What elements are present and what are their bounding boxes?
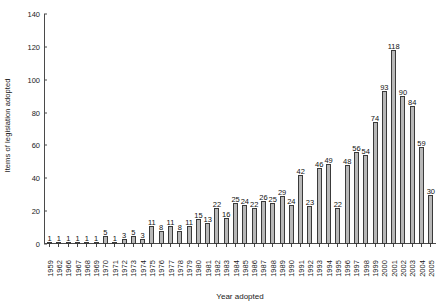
x-axis-tick-mark <box>393 244 394 247</box>
x-axis-tick-label: 1962 <box>54 258 63 280</box>
x-axis-tick-mark <box>216 244 217 247</box>
bar-slot: 1 <box>82 14 91 244</box>
x-axis-slot: 1989 <box>277 244 286 288</box>
bar-slot: 3 <box>119 14 128 244</box>
bar[interactable]: 22 <box>335 208 340 244</box>
x-axis-tick-mark <box>319 244 320 247</box>
x-axis-slot: 1973 <box>129 244 138 288</box>
x-axis-slot: 1981 <box>203 244 212 288</box>
x-axis-tick-mark <box>189 244 190 247</box>
bar[interactable]: 59 <box>419 147 424 244</box>
x-axis-tick-label: 1985 <box>240 258 249 280</box>
bar-slot: 24 <box>240 14 249 244</box>
bar[interactable]: 11 <box>149 226 154 244</box>
x-axis-slot: 1983 <box>222 244 231 288</box>
x-axis-tick-mark <box>430 244 431 247</box>
bar-slot: 11 <box>147 14 156 244</box>
bar-value-label: 5 <box>103 228 107 237</box>
x-axis-tick-mark <box>402 244 403 247</box>
x-axis-tick-label: 1977 <box>166 258 175 280</box>
bar[interactable]: 42 <box>298 175 303 244</box>
y-axis: 020406080100120140 <box>14 14 44 244</box>
bar[interactable]: 24 <box>289 205 294 244</box>
bar-slot: 56 <box>352 14 361 244</box>
bar[interactable]: 25 <box>270 203 275 244</box>
bar[interactable]: 54 <box>363 155 368 244</box>
bar-value-label: 93 <box>380 83 388 92</box>
bar-value-label: 22 <box>213 200 221 209</box>
y-axis-title: Items of legislation adopted <box>0 0 14 250</box>
bar-slot: 48 <box>343 14 352 244</box>
bar[interactable]: 26 <box>261 201 266 244</box>
x-axis-tick-label: 1973 <box>129 258 138 280</box>
bar[interactable]: 30 <box>428 195 433 244</box>
x-axis-tick-mark <box>356 244 357 247</box>
x-axis-tick-mark <box>328 244 329 247</box>
x-axis-tick-label: 1967 <box>73 258 82 280</box>
x-axis-tick-mark <box>337 244 338 247</box>
x-axis-slot: 1993 <box>315 244 324 288</box>
bar[interactable]: 25 <box>233 203 238 244</box>
x-axis-tick-label: 1984 <box>231 258 240 280</box>
bar-value-label: 59 <box>417 139 425 148</box>
bar[interactable]: 56 <box>354 152 359 244</box>
bar[interactable]: 29 <box>280 196 285 244</box>
bar-value-label: 1 <box>48 234 52 243</box>
bar-value-label: 25 <box>269 195 277 204</box>
bar[interactable]: 84 <box>410 106 415 244</box>
x-axis-tick-mark <box>207 244 208 247</box>
bar[interactable]: 49 <box>326 164 331 245</box>
bar[interactable]: 22 <box>252 208 257 244</box>
bar-value-label: 24 <box>287 197 295 206</box>
bar-value-label: 1 <box>94 234 98 243</box>
bar-slot: 26 <box>259 14 268 244</box>
y-axis-tick-label: 20 <box>32 207 40 216</box>
bar[interactable]: 90 <box>400 96 405 244</box>
bar[interactable]: 74 <box>373 122 378 244</box>
bar-value-label: 22 <box>250 200 258 209</box>
bar-value-label: 84 <box>408 98 416 107</box>
x-axis-slot: 1968 <box>82 244 91 288</box>
x-axis-tick-label: 1970 <box>101 258 110 280</box>
y-axis-tick-label: 60 <box>32 141 40 150</box>
x-axis-tick-mark <box>179 244 180 247</box>
x-axis-slot: 1987 <box>259 244 268 288</box>
x-axis-tick-mark <box>198 244 199 247</box>
bar[interactable]: 8 <box>177 231 182 244</box>
bar[interactable]: 11 <box>168 226 173 244</box>
x-axis-slot: 1976 <box>157 244 166 288</box>
x-axis-tick-mark <box>300 244 301 247</box>
y-axis-tick-label: 40 <box>32 174 40 183</box>
x-axis-tick-label: 1979 <box>185 258 194 280</box>
x-axis-tick-mark <box>170 244 171 247</box>
bar[interactable]: 93 <box>382 91 387 244</box>
bar[interactable]: 24 <box>242 205 247 244</box>
bar[interactable]: 23 <box>307 206 312 244</box>
x-axis-slot: 1972 <box>119 244 128 288</box>
bar[interactable]: 15 <box>196 219 201 244</box>
bar[interactable]: 16 <box>224 218 229 244</box>
bar[interactable]: 11 <box>187 226 192 244</box>
bar[interactable]: 5 <box>131 236 136 244</box>
bar-value-label: 26 <box>259 193 267 202</box>
bar[interactable]: 8 <box>159 231 164 244</box>
x-axis-slot: 1962 <box>54 244 63 288</box>
x-axis-tick-mark <box>142 244 143 247</box>
bar-value-label: 5 <box>131 228 135 237</box>
bar[interactable]: 118 <box>391 50 396 244</box>
x-axis-slot: 1986 <box>250 244 259 288</box>
bar[interactable]: 48 <box>345 165 350 244</box>
bar-slot: 15 <box>194 14 203 244</box>
bar-value-label: 1 <box>75 234 79 243</box>
bar-slot: 5 <box>129 14 138 244</box>
bar[interactable]: 46 <box>317 168 322 244</box>
x-axis-tick-mark <box>133 244 134 247</box>
bar[interactable]: 13 <box>205 223 210 244</box>
x-axis-slot: 1999 <box>370 244 379 288</box>
bar[interactable]: 22 <box>214 208 219 244</box>
x-axis-tick-label: 1980 <box>194 258 203 280</box>
x-axis-tick-mark <box>114 244 115 247</box>
bar[interactable]: 5 <box>103 236 108 244</box>
x-axis-tick-mark <box>151 244 152 247</box>
y-axis-tick-label: 120 <box>27 42 40 51</box>
